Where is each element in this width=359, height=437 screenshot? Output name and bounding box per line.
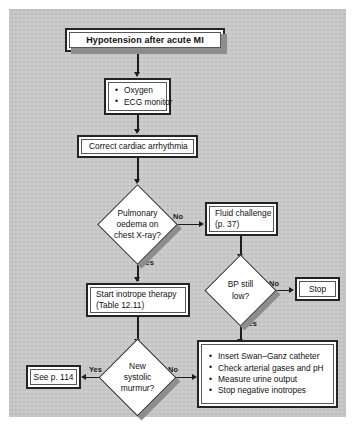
- connector-title-to-initial: [137, 52, 139, 74]
- monitoring-measures-list: Insert Swan–Ganz catheter Check arterial…: [209, 351, 326, 397]
- flowchart-canvas: Hypotension after acute MI Oxygen ECG mo…: [9, 9, 346, 417]
- list-item: Oxygen: [115, 85, 160, 96]
- start-inotrope-line: (Table 12.11): [96, 300, 180, 311]
- decision-line: systolic: [124, 372, 151, 383]
- decision-line: BP still: [228, 279, 253, 290]
- arrowhead-oedema-no: [199, 221, 204, 227]
- node-start-inotrope: Start inotrope therapy (Table 12.11): [86, 283, 190, 317]
- node-see-page: See p. 114: [26, 365, 81, 389]
- list-item: ECG monitor: [115, 97, 160, 108]
- edge-label-murmur-yes: Yes: [89, 365, 102, 374]
- decision-line: chest X-ray?: [114, 230, 161, 241]
- decision-line: New: [129, 361, 146, 372]
- title-label: Hypotension after acute MI: [86, 35, 204, 46]
- decision-line: murmur?: [121, 383, 155, 394]
- initial-measures-list: Oxygen ECG monitor: [115, 85, 160, 108]
- node-pulmonary-oedema-decision: Pulmonary oedema on chest X-ray?: [109, 196, 166, 253]
- edge-label-oedema-no: No: [173, 212, 183, 221]
- node-stop: Stop: [295, 277, 340, 301]
- node-bp-still-low-decision: BP still low?: [215, 265, 266, 316]
- decision-line: Pulmonary: [117, 208, 157, 219]
- stop-label: Stop: [309, 284, 326, 295]
- list-item: Check arterial gases and pH: [209, 363, 326, 374]
- arrowhead-oedema-yes: [134, 277, 140, 282]
- list-item: Measure urine output: [209, 374, 326, 385]
- node-fluid-challenge: Fluid challenge (p. 37): [205, 202, 278, 236]
- arrowhead-title-to-initial: [134, 72, 140, 77]
- node-new-systolic-murmur-decision: New systolic murmur?: [110, 350, 165, 405]
- pulmonary-oedema-label: Pulmonary oedema on chest X-ray?: [109, 196, 166, 253]
- arrowhead-murmur-yes: [81, 374, 86, 380]
- node-initial-measures: Oxygen ECG monitor: [104, 78, 171, 115]
- node-correct-arrhythmia: Correct cardiac arrhythmia: [77, 135, 198, 158]
- decision-line: low?: [232, 291, 249, 302]
- new-systolic-murmur-label: New systolic murmur?: [110, 350, 165, 405]
- list-item: Insert Swan–Ganz catheter: [209, 351, 326, 362]
- node-monitoring-measures: Insert Swan–Ganz catheter Check arterial…: [197, 340, 338, 408]
- arrowhead-initial-to-arrhythmia: [134, 129, 140, 134]
- see-page-label: See p. 114: [34, 372, 74, 383]
- fluid-challenge-line: (p. 37): [215, 219, 268, 230]
- start-inotrope-line: Start inotrope therapy: [96, 289, 180, 300]
- decision-line: oedema on: [117, 219, 159, 230]
- fluid-challenge-line: Fluid challenge: [215, 208, 268, 219]
- list-item: Stop negative inotropes: [209, 385, 326, 396]
- bp-still-low-label: BP still low?: [215, 265, 266, 316]
- node-title-banner: Hypotension after acute MI: [65, 28, 225, 52]
- arrowhead-bp-no: [289, 287, 294, 293]
- figure-page: Hypotension after acute MI Oxygen ECG mo…: [0, 0, 359, 437]
- correct-arrhythmia-label: Correct cardiac arrhythmia: [89, 141, 186, 152]
